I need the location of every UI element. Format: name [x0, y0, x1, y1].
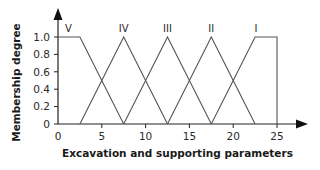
y-tick-label: 0.6	[33, 66, 50, 78]
y-axis-title: Membership degree	[10, 23, 22, 141]
series-label-i: I	[254, 23, 257, 34]
y-ticks: 00.20.40.60.81.0	[33, 31, 58, 130]
x-tick-label: 20	[227, 130, 240, 142]
series-line-iii	[124, 37, 212, 124]
series-line-ii	[168, 37, 256, 124]
x-tick-label: 5	[98, 130, 105, 142]
y-tick-label: 1.0	[33, 31, 50, 43]
series-label-iv: IV	[119, 23, 129, 34]
y-axis-arrow-icon	[54, 8, 63, 20]
x-tick-label: 10	[139, 130, 152, 142]
series-line-iv	[80, 37, 168, 124]
x-axis-arrow-icon	[296, 120, 308, 129]
series-lines	[58, 37, 277, 124]
x-tick-label: 25	[270, 130, 283, 142]
series-label-ii: II	[208, 23, 214, 34]
series-label-iii: III	[163, 23, 172, 34]
series-labels: VIVIIIIII	[65, 23, 257, 34]
y-tick-label: 0	[43, 118, 50, 130]
series-label-v: V	[65, 23, 72, 34]
x-tick-label: 0	[55, 130, 62, 142]
axes	[54, 8, 309, 129]
x-tick-label: 15	[183, 130, 196, 142]
series-line-v	[58, 37, 124, 124]
y-tick-label: 0.8	[33, 48, 50, 60]
y-tick-label: 0.2	[33, 100, 50, 112]
y-tick-label: 0.4	[33, 83, 50, 95]
x-axis-title: Excavation and supporting parameters	[62, 147, 293, 159]
series-line-i	[211, 37, 277, 124]
membership-function-chart: 0510152025 00.20.40.60.81.0 VIVIIIIII Ex…	[0, 0, 320, 170]
x-ticks: 0510152025	[55, 124, 284, 142]
